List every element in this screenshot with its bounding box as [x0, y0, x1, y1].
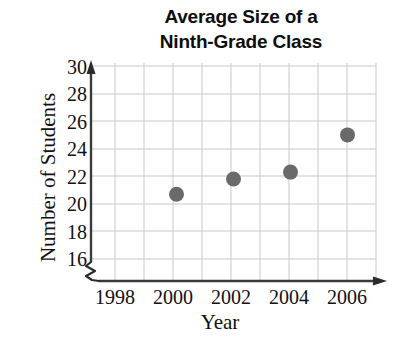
grid-lines-vertical: [115, 63, 376, 281]
data-points: [169, 127, 355, 201]
data-point: [226, 172, 241, 187]
axis-break-symbol: [86, 262, 99, 281]
plot-area: [0, 0, 398, 348]
chart-container: Average Size of aNinth-Grade Class Numbe…: [0, 0, 398, 348]
x-axis-line: [99, 277, 387, 286]
data-point: [169, 187, 184, 202]
data-point: [283, 165, 298, 180]
grid-lines-horizontal: [91, 66, 376, 259]
data-point: [340, 127, 355, 142]
y-axis-line: [87, 60, 96, 262]
